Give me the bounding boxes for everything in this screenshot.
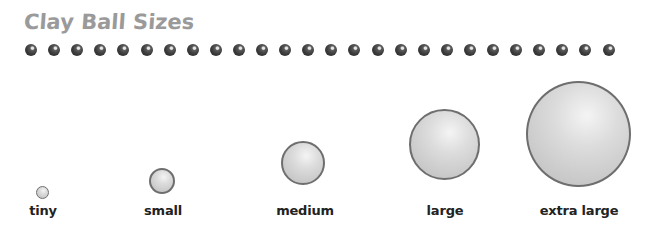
dot-icon <box>579 44 591 56</box>
ball-small <box>149 168 175 194</box>
dot-icon <box>279 44 291 56</box>
dot-icon <box>395 44 407 56</box>
dot-icon <box>533 44 545 56</box>
ball-medium <box>281 141 325 185</box>
decorative-dot-row <box>0 0 658 70</box>
dot-icon <box>187 44 199 56</box>
ball-tiny <box>36 186 49 199</box>
dot-icon <box>487 44 499 56</box>
dot-icon <box>141 44 153 56</box>
dot-icon <box>556 44 568 56</box>
label-small: small <box>144 203 182 218</box>
dot-icon <box>464 44 476 56</box>
dot-icon <box>233 44 245 56</box>
dot-icon <box>348 44 360 56</box>
label-medium: medium <box>276 203 334 218</box>
ball-extra-large <box>526 81 631 187</box>
dot-icon <box>48 44 60 56</box>
dot-icon <box>94 44 106 56</box>
label-tiny: tiny <box>29 203 57 218</box>
dot-icon <box>164 44 176 56</box>
dot-icon <box>256 44 268 56</box>
dot-icon <box>603 44 615 56</box>
dot-icon <box>25 44 37 56</box>
label-extra-large: extra large <box>540 203 619 218</box>
dot-icon <box>210 44 222 56</box>
label-large: large <box>427 203 464 218</box>
dot-icon <box>71 44 83 56</box>
dot-icon <box>372 44 384 56</box>
dot-icon <box>117 44 129 56</box>
dot-icon <box>510 44 522 56</box>
dot-icon <box>418 44 430 56</box>
dot-icon <box>302 44 314 56</box>
ball-large <box>409 109 480 180</box>
dot-icon <box>325 44 337 56</box>
dot-icon <box>441 44 453 56</box>
